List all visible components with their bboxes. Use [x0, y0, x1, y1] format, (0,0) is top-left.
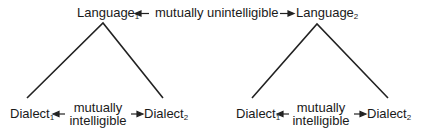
tree-1-branches — [27, 23, 163, 98]
tree-1-dialect-2-label: Dialect2 — [144, 107, 188, 125]
tree-2-dialect-1-label: Dialect1 — [236, 107, 280, 125]
arrow-right-icon — [360, 112, 366, 117]
language-2-label: Language2 — [296, 6, 358, 24]
tree-1-dialect-1-label: Dialect1 — [10, 107, 54, 125]
language-1-label: Language1 — [77, 6, 139, 24]
arrow-right-icon — [288, 11, 294, 16]
tree-2-dialect-2-label: Dialect2 — [367, 107, 411, 125]
tree-2-branches — [252, 24, 388, 98]
tree-1-relation-label: mutuallyintelligible — [68, 101, 128, 127]
arrow-right-icon — [137, 112, 143, 117]
top-relation-label: mutually unintelligible — [155, 6, 279, 20]
tree-2-relation-label: mutuallyintelligible — [290, 101, 352, 127]
